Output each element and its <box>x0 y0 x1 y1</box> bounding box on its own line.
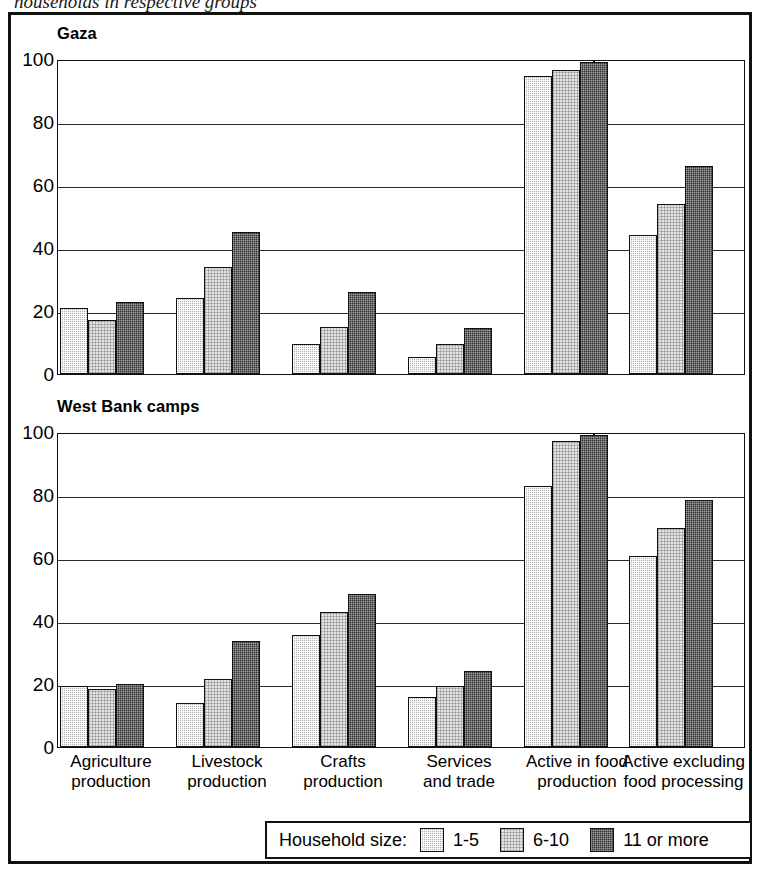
y-tick-label: 60 <box>6 548 54 570</box>
bar-gaza-c1-s2 <box>232 232 260 374</box>
x-label-line2: food processing <box>622 772 745 792</box>
y-axis-gaza: 020406080100 <box>2 60 54 375</box>
plot-area-gaza <box>57 60 745 375</box>
x-label-line1: Livestock <box>192 752 263 771</box>
bar-west-bank-camps-c3-s2 <box>464 671 492 747</box>
bar-gaza-c0-s2 <box>116 302 144 374</box>
x-label-1: Livestockproduction <box>169 752 285 792</box>
bar-gaza-c4-s0 <box>524 76 552 374</box>
bar-west-bank-camps-c3-s1 <box>436 686 464 747</box>
x-label-line2: production <box>53 772 169 792</box>
bar-west-bank-camps-c4-s0 <box>524 486 552 747</box>
y-tick-label: 100 <box>6 49 54 71</box>
bar-west-bank-camps-c5-s1 <box>657 528 685 747</box>
legend-label-11-or-more: 11 or more <box>623 830 709 851</box>
legend-label-1-5: 1-5 <box>453 830 479 851</box>
y-tick-label: 100 <box>6 422 54 444</box>
y-tick-label: 0 <box>6 737 54 759</box>
bar-west-bank-camps-c5-s0 <box>629 556 657 747</box>
panel-title-west-bank-camps: West Bank camps <box>57 397 199 416</box>
x-label-line2: production <box>285 772 401 792</box>
bar-west-bank-camps-c1-s2 <box>232 641 260 747</box>
bar-west-bank-camps-c0-s1 <box>88 689 116 747</box>
bar-gaza-c0-s1 <box>88 320 116 374</box>
panel-title-gaza: Gaza <box>57 24 97 43</box>
bar-gaza-c5-s2 <box>685 166 713 374</box>
legend-title: Household size: <box>279 830 407 851</box>
y-tick-label: 80 <box>6 485 54 507</box>
x-label-0: Agricultureproduction <box>53 752 169 792</box>
y-tick-label: 40 <box>6 611 54 633</box>
x-label-line1: Agriculture <box>70 752 151 771</box>
bar-west-bank-camps-c2-s2 <box>348 594 376 747</box>
bar-west-bank-camps-c2-s0 <box>292 635 320 747</box>
bar-west-bank-camps-c2-s1 <box>320 612 348 747</box>
bar-west-bank-camps-c3-s0 <box>408 697 436 747</box>
x-label-3: Servicesand trade <box>401 752 517 792</box>
bar-gaza-c2-s2 <box>348 292 376 374</box>
x-label-line1: Active in food <box>526 752 628 771</box>
y-tick-label: 20 <box>6 674 54 696</box>
y-tick-label: 60 <box>6 175 54 197</box>
y-axis-west-bank-camps: 020406080100 <box>2 433 54 748</box>
y-tick-label: 40 <box>6 238 54 260</box>
x-label-2: Craftsproduction <box>285 752 401 792</box>
legend-swatch-11-or-more <box>590 828 614 852</box>
bar-gaza-c1-s0 <box>176 298 204 374</box>
plot-area-west-bank-camps <box>57 433 745 748</box>
bar-gaza-c3-s1 <box>436 344 464 374</box>
bar-gaza-c0-s0 <box>60 308 88 374</box>
x-label-line1: Active excluding <box>622 752 745 771</box>
x-axis-category-labels: AgricultureproductionLivestockproduction… <box>57 752 745 808</box>
bar-west-bank-camps-c4-s1 <box>552 441 580 747</box>
bar-west-bank-camps-c5-s2 <box>685 500 713 747</box>
chart-legend: Household size: 1-56-1011 or more <box>265 821 752 859</box>
y-tick-label: 80 <box>6 112 54 134</box>
x-label-line2: production <box>517 772 637 792</box>
gridline <box>58 187 744 188</box>
gridline <box>58 497 744 498</box>
x-label-4: Active in foodproduction <box>517 752 637 792</box>
y-tick-label: 20 <box>6 301 54 323</box>
legend-label-6-10: 6-10 <box>533 830 569 851</box>
bar-gaza-c2-s0 <box>292 344 320 374</box>
bar-gaza-c1-s1 <box>204 267 232 374</box>
bar-west-bank-camps-c1-s0 <box>176 703 204 747</box>
y-tick-label: 0 <box>6 364 54 386</box>
bar-gaza-c4-s2 <box>580 62 608 374</box>
bar-gaza-c2-s1 <box>320 327 348 374</box>
bar-west-bank-camps-c0-s2 <box>116 684 144 747</box>
x-label-line1: Crafts <box>320 752 365 771</box>
bar-gaza-c5-s1 <box>657 204 685 374</box>
bar-gaza-c4-s1 <box>552 70 580 374</box>
x-label-line2: production <box>169 772 285 792</box>
bar-gaza-c3-s2 <box>464 328 492 374</box>
legend-swatch-6-10 <box>500 828 524 852</box>
bar-gaza-c3-s0 <box>408 357 436 374</box>
bar-west-bank-camps-c4-s2 <box>580 435 608 747</box>
x-label-line1: Services <box>426 752 491 771</box>
x-label-5: Active excludingfood processing <box>622 752 745 792</box>
bar-gaza-c5-s0 <box>629 235 657 374</box>
x-label-line2: and trade <box>401 772 517 792</box>
gridline <box>58 124 744 125</box>
chart-page: households in respective groups Gaza Wes… <box>0 0 760 875</box>
legend-swatch-1-5 <box>420 828 444 852</box>
bar-west-bank-camps-c0-s0 <box>60 686 88 747</box>
bar-west-bank-camps-c1-s1 <box>204 679 232 747</box>
